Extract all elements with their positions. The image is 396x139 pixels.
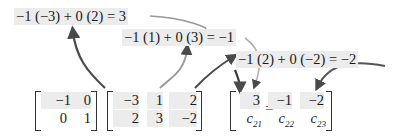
equation-c13: −1 (2) + 0 (−2) = −2 — [236, 51, 358, 68]
equation-c12: −1 (1) + 0 (3) = −1 — [122, 29, 236, 46]
equation-c11: −1 (−3) + 0 (2) = 3 — [14, 8, 128, 25]
matrix-b-cell: −3 — [113, 92, 139, 109]
matrix-c-cell-c23: c23 — [300, 110, 326, 133]
matrix-a-cell: −1 — [41, 92, 71, 109]
matrix-a-cell: 1 — [71, 110, 91, 127]
matrix-a-cell: 0 — [71, 92, 91, 109]
matrix-c-cell: −2 — [300, 92, 324, 109]
matrix-c-cell: −1 — [268, 92, 292, 109]
matrix-b-cell: 2 — [113, 110, 139, 127]
matrix-b: −3 1 2 2 3 −2 — [107, 91, 202, 129]
arrow-col3-to-eq3 — [195, 57, 233, 88]
matrix-b-cell: 1 — [147, 92, 163, 109]
matrix-a: −1 0 0 1 — [35, 91, 97, 129]
matrix-c-cell-c21: c21 — [238, 110, 262, 133]
matrix-a-cell: 0 — [41, 110, 67, 127]
right-bracket — [326, 91, 332, 131]
matrix-c-cell: 3 — [240, 92, 260, 109]
right-bracket — [196, 91, 202, 131]
right-bracket — [91, 91, 97, 131]
arrow-eq1-to-c21 — [235, 70, 240, 88]
matrix-b-cell: 3 — [147, 110, 163, 127]
left-bracket — [230, 91, 236, 131]
arrow-col2-to-eq2 — [160, 49, 187, 88]
matrix-c-cell-c22: c22 — [268, 110, 294, 133]
matrix-b-cell: −2 — [169, 110, 197, 127]
arrow-eq1-to-c11 — [150, 16, 206, 28]
arrow-row1-to-eq1 — [73, 32, 105, 88]
matrix-b-cell: 2 — [169, 92, 197, 109]
matrix-c: 3 −1 −2 c21 c22 c23 — [230, 91, 332, 129]
